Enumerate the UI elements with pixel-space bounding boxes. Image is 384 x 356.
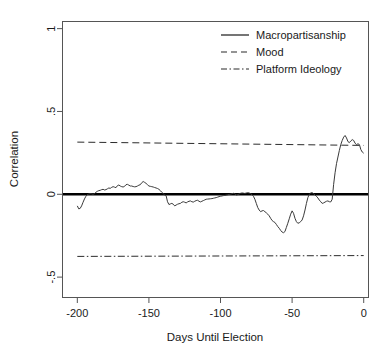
legend-item-mood: Mood	[221, 46, 284, 58]
series-line-macropartisanship	[77, 135, 363, 232]
x-axis-title: Days Until Election	[167, 331, 264, 343]
x-tick-label: 0	[361, 307, 367, 319]
x-tick-label: -100	[209, 307, 231, 319]
correlation-line-chart: 1.50-.5 -200-150-100-500 Correlation Day…	[0, 0, 384, 356]
y-tick-label: .5	[45, 107, 57, 116]
series-line-mood	[77, 142, 363, 145]
legend-item-platform-ideology: Platform Ideology	[221, 63, 342, 75]
series-line-platform-ideology	[77, 256, 363, 257]
x-axis-tick-labels: -200-150-100-500	[66, 307, 366, 319]
chart-container: 1.50-.5 -200-150-100-500 Correlation Day…	[0, 0, 384, 356]
y-tick-label: 1	[45, 26, 57, 32]
y-tick-label: 0	[45, 191, 57, 197]
chart-legend: Macropartisanship Mood Platform Ideology	[221, 29, 346, 75]
legend-label-platform-ideology: Platform Ideology	[256, 63, 342, 75]
y-tick-label: -.5	[45, 271, 57, 284]
x-tick-label: -200	[66, 307, 88, 319]
y-axis-tick-labels: 1.50-.5	[45, 26, 57, 284]
y-axis-title: Correlation	[8, 131, 20, 187]
legend-label-macropartisanship: Macropartisanship	[256, 29, 346, 41]
x-tick-label: -50	[284, 307, 300, 319]
legend-label-mood: Mood	[256, 46, 284, 58]
legend-item-macropartisanship: Macropartisanship	[221, 29, 346, 41]
x-tick-label: -150	[138, 307, 160, 319]
